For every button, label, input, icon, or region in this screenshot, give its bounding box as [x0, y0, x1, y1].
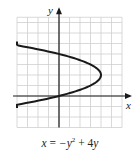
x-axis-label: x	[125, 99, 131, 111]
equation-caption: x = −y2 + 4y	[0, 136, 140, 149]
caption-equals: =	[47, 137, 59, 149]
grid	[17, 17, 122, 127]
caption-plus: +	[75, 137, 87, 149]
axes	[13, 7, 132, 127]
parabola-graph: y x	[0, 0, 140, 135]
caption-term1: −y	[59, 137, 72, 149]
caption-term2: y	[93, 137, 98, 149]
y-axis-label: y	[47, 4, 53, 16]
